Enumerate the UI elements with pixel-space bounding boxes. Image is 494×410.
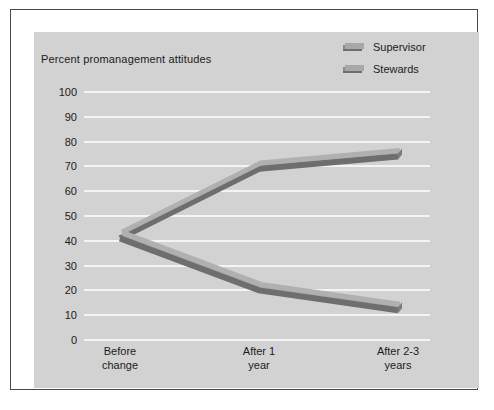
- legend-swatch-icon: [343, 43, 364, 51]
- series-ribbons: [72, 80, 442, 360]
- chart-title: Percent promanagement attitudes: [41, 53, 211, 65]
- legend-swatch-icon: [343, 65, 364, 73]
- series-line-supervisor: [120, 156, 398, 238]
- legend-label-supervisor: Supervisor: [373, 41, 426, 53]
- chart-legend: Supervisor Stewards: [343, 38, 463, 82]
- legend-label-stewards: Stewards: [373, 63, 419, 75]
- legend-item-supervisor: Supervisor: [343, 38, 463, 56]
- plot-area: 0102030405060708090100 BeforechangeAfter…: [84, 92, 430, 340]
- legend-item-stewards: Stewards: [343, 60, 463, 78]
- chart-figure: Percent promanagement attitudes Supervis…: [0, 0, 494, 410]
